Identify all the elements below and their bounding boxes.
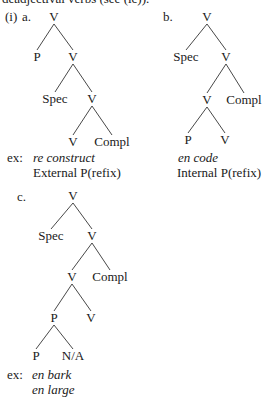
example-prefix-c: ex: xyxy=(7,368,23,382)
tree-node: P xyxy=(50,311,57,325)
tree-node: V xyxy=(202,93,211,107)
tree-node: Spec xyxy=(38,229,63,243)
tree-edge xyxy=(188,107,207,133)
tree-node: P xyxy=(32,349,39,363)
tree-edge xyxy=(92,106,112,135)
example-prefix-a: ex: xyxy=(7,151,23,165)
tree-node: Spec xyxy=(42,92,67,106)
tree-edge xyxy=(207,24,226,50)
tree-edge xyxy=(54,24,73,50)
tree-edge xyxy=(72,243,92,270)
tree-a-label: a. xyxy=(22,10,31,24)
example-a: re construct xyxy=(33,151,95,165)
example-c-2: en large xyxy=(32,383,74,397)
tree-edge xyxy=(54,325,73,349)
tree-edge xyxy=(51,203,73,229)
tree-edge xyxy=(54,284,72,311)
tree-node: N/A xyxy=(62,349,84,363)
caption-b: Internal P(refix) xyxy=(177,166,261,180)
tree-node: P xyxy=(184,133,191,147)
tree-edge xyxy=(207,107,225,133)
tree-edge xyxy=(92,243,110,270)
tree-b-label: b. xyxy=(163,10,173,24)
tree-edge xyxy=(37,24,54,50)
tree-node: V xyxy=(202,10,211,24)
example-c-1: en bark xyxy=(32,368,71,382)
tree-edge xyxy=(226,64,244,93)
example-number: (i) xyxy=(5,10,17,24)
tree-edge xyxy=(72,284,91,311)
tree-node: P xyxy=(33,50,40,64)
tree-edge xyxy=(73,106,92,135)
tree-edge xyxy=(73,203,92,229)
tree-node: Spec xyxy=(173,50,198,64)
tree-node: V xyxy=(87,229,96,243)
tree-node: V xyxy=(87,92,96,106)
tree-edge xyxy=(55,64,73,92)
tree-node: Compl xyxy=(226,93,261,107)
tree-c-label: c. xyxy=(17,190,26,204)
tree-node: Compl xyxy=(94,135,129,149)
tree-edge xyxy=(186,24,207,50)
tree-edge xyxy=(73,64,92,92)
example-b: en code xyxy=(178,151,218,165)
tree-node: V xyxy=(221,50,230,64)
tree-node: V xyxy=(49,10,58,24)
tree-edge xyxy=(36,325,54,349)
tree-node: Compl xyxy=(92,270,127,284)
tree-node: V xyxy=(68,189,77,203)
tree-node: V xyxy=(68,50,77,64)
tree-node: V xyxy=(220,133,229,147)
tree-node: V xyxy=(67,270,76,284)
tree-node: V xyxy=(68,135,77,149)
tree-edge xyxy=(207,64,226,93)
linguistics-figure: deadjectival verbs (see (ic)). (i) a. b.… xyxy=(0,0,263,398)
tree-node: V xyxy=(86,311,95,325)
caption-a: External P(refix) xyxy=(33,166,121,180)
